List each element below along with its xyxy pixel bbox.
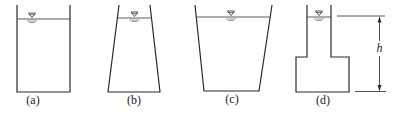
container-d: (d) bbox=[296, 5, 349, 107]
container-c-walls bbox=[195, 5, 272, 91]
hydrostatic-containers-figure: (a) (b) (c) (d bbox=[0, 0, 402, 113]
arrowhead-down-icon bbox=[378, 85, 382, 91]
container-d-walls bbox=[296, 5, 349, 92]
container-b: (b) bbox=[108, 5, 160, 107]
container-c-label: (c) bbox=[225, 92, 238, 106]
container-c: (c) bbox=[195, 5, 272, 106]
free-surface-triangle-icon bbox=[27, 13, 37, 23]
free-surface-triangle-icon bbox=[130, 12, 140, 22]
free-surface-triangle-icon bbox=[314, 11, 324, 21]
container-a: (a) bbox=[17, 5, 70, 107]
free-surface-triangle-icon bbox=[226, 11, 236, 21]
container-a-label: (a) bbox=[26, 93, 39, 107]
depth-label-h: h bbox=[377, 41, 383, 55]
arrowhead-up-icon bbox=[378, 17, 382, 23]
container-d-label: (d) bbox=[316, 93, 330, 107]
depth-dimension: h bbox=[337, 16, 386, 92]
container-a-walls bbox=[17, 5, 70, 92]
container-b-label: (b) bbox=[127, 93, 141, 107]
